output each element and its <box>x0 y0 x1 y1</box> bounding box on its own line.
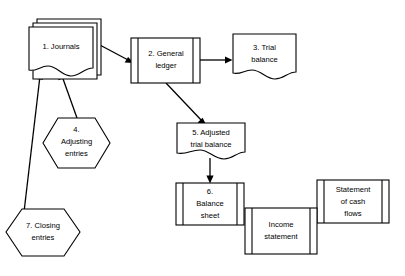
node-general-ledger[interactable]: 2. General ledger <box>131 38 200 83</box>
balance-sheet-label-line3: sheet <box>201 211 220 220</box>
node-balance-sheet[interactable]: 6. Balance sheet <box>176 183 244 225</box>
balance-sheet-label-line1: 6. <box>207 187 213 196</box>
arrow-adjusted-trial-balance-to-balance-sheet <box>206 158 213 184</box>
adjusted-trial-balance-label-line2: trial balance <box>191 140 232 149</box>
income-statement-label-line2: statement <box>264 232 298 241</box>
arrow-journals-to-general-ledger <box>98 44 134 63</box>
closing-entries-label-line2: entries <box>32 233 55 242</box>
node-closing-entries[interactable]: 7. Closing entries <box>6 209 80 256</box>
node-journals[interactable]: 1. Journals <box>29 19 101 79</box>
adjusting-entries-label-line3: entries <box>65 149 88 158</box>
balance-sheet-label-line2: Balance <box>196 199 223 208</box>
trial-balance-label-line2: balance <box>251 55 278 64</box>
node-income-statement[interactable]: Income statement <box>245 208 317 254</box>
flowchart-canvas: 1. Journals 2. General ledger 3. Trial b… <box>0 0 405 276</box>
statement-of-cash-flows-label-line2: of cash <box>341 197 365 206</box>
statement-of-cash-flows-label-line3: flows <box>344 209 362 218</box>
income-statement-label-line1: Income <box>269 220 294 229</box>
journals-front-sheet <box>29 27 93 76</box>
node-adjusting-entries[interactable]: 4. Adjusting entries <box>43 118 110 168</box>
adjusted-trial-balance-label-line1: 5. Adjusted <box>192 128 230 137</box>
closing-entries-label-line1: 7. Closing <box>26 221 60 230</box>
income-statement-box <box>245 208 317 254</box>
accounting-cycle-diagram: 1. Journals 2. General ledger 3. Trial b… <box>0 0 405 276</box>
node-trial-balance[interactable]: 3. Trial balance <box>233 34 296 79</box>
node-adjusted-trial-balance[interactable]: 5. Adjusted trial balance <box>177 123 245 159</box>
general-ledger-label-line1: 2. General <box>148 49 184 58</box>
arrow-closing-entries-to-journals <box>24 71 43 212</box>
arrow-general-ledger-to-adjusted-trial-balance <box>166 83 207 126</box>
node-statement-of-cash-flows[interactable]: Statement of cash flows <box>317 180 389 223</box>
arrow-general-ledger-to-trial-balance <box>200 56 233 63</box>
adjusting-entries-label-line1: 4. <box>73 125 79 134</box>
general-ledger-label-line2: ledger <box>155 61 177 70</box>
adjusting-entries-label-line2: Adjusting <box>61 137 92 146</box>
journals-label-line1: 1. Journals <box>42 42 79 51</box>
statement-of-cash-flows-label-line1: Statement <box>336 185 372 194</box>
trial-balance-label-line1: 3. Trial <box>253 43 276 52</box>
